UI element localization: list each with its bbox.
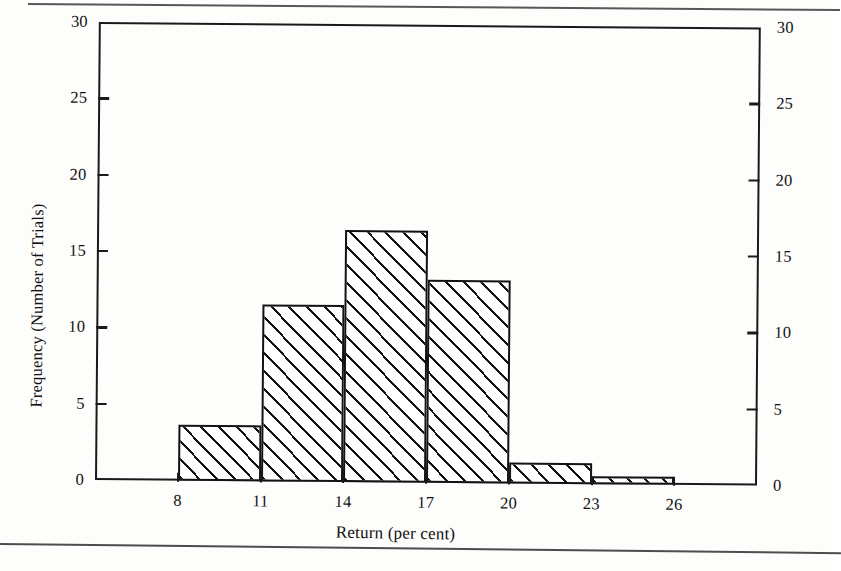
bars-group (95, 22, 761, 486)
y-axis-left-ticks (4, 0, 836, 6)
y-axis-right-labels: 302520151050 (4, 0, 836, 6)
y-tick-label-right: 15 (775, 249, 809, 266)
x-axis-labels: 8111417202326 (4, 0, 836, 6)
y-tick-left (96, 326, 107, 328)
y-tick-left (98, 97, 109, 99)
x-axis-ticks (4, 0, 836, 6)
y-tick-right (748, 255, 759, 257)
x-tick (259, 473, 261, 482)
y-tick-right (749, 179, 760, 181)
y-tick-label-left: 10 (51, 319, 85, 336)
x-tick-label: 20 (488, 495, 528, 512)
x-tick (508, 475, 510, 484)
y-tick-label-left: 25 (53, 90, 87, 107)
y-tick-label-right: 20 (775, 172, 809, 189)
y-tick-label-right: 10 (774, 325, 808, 342)
y-tick-label-right: 0 (773, 478, 807, 495)
x-tick-label: 23 (571, 496, 611, 513)
histogram-bar (178, 424, 261, 481)
histogram-bar (509, 462, 592, 484)
x-tick-label: 11 (240, 493, 280, 510)
y-tick-label-left: 20 (52, 166, 86, 183)
x-tick-label: 17 (406, 495, 446, 512)
x-tick (673, 477, 675, 486)
y-tick-label-right: 5 (774, 401, 808, 418)
y-tick-right (747, 408, 758, 410)
y-tick-label-left: 0 (50, 472, 84, 489)
y-tick-label-right: 25 (776, 96, 810, 113)
x-tick (590, 476, 592, 485)
y-tick-label-left: 5 (51, 395, 85, 412)
x-tick (425, 475, 427, 484)
histogram-bar (426, 280, 510, 484)
y-tick-label-right: 30 (777, 20, 811, 37)
y-axis-left-labels: 302520151050 (4, 0, 836, 6)
y-tick-label-left: 15 (52, 243, 86, 260)
y-tick-left (96, 403, 107, 405)
y-tick-left (98, 174, 109, 176)
y-tick-right (749, 103, 760, 105)
y-axis-title: Frequency (Number of Trials) (26, 185, 48, 425)
plot-skew-wrapper: 302520151050 302520151050 8111417202326 … (0, 0, 836, 571)
x-tick (177, 473, 179, 482)
histogram-bar (591, 477, 674, 485)
x-tick (342, 474, 344, 483)
histogram-bar (343, 230, 428, 483)
x-axis-title: Return (per cent) (230, 521, 560, 546)
x-tick-label: 14 (323, 494, 363, 511)
histogram-bar (260, 304, 344, 482)
y-tick-left (97, 250, 108, 252)
y-axis-right-ticks (4, 0, 836, 6)
y-tick-right (747, 332, 758, 334)
x-tick-label: 8 (158, 493, 198, 510)
x-tick-label: 26 (654, 497, 694, 514)
y-tick-label-left: 30 (54, 14, 88, 31)
